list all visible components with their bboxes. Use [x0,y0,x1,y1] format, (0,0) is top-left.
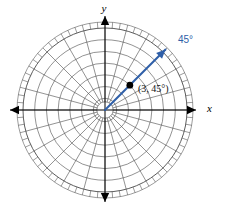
outer-tick-mark [179,145,184,148]
y-axis-arrowhead-bottom [101,193,109,202]
outer-tick-mark [140,30,143,35]
outer-tick-mark [55,38,58,43]
outer-tick-mark [17,102,23,103]
polar-graph-figure: y x 45° (3, 45°) [0,0,251,213]
outer-tick-mark [48,173,52,178]
outer-tick-mark [168,163,173,167]
outer-tick-mark [126,189,128,195]
outer-tick-mark [97,22,98,28]
outer-tick-mark [168,53,173,57]
outer-tick-mark [176,66,181,69]
plotted-point-marker [126,82,133,89]
outer-tick-mark [33,157,38,160]
outer-tick-mark [90,191,91,197]
outer-tick-mark [176,151,181,154]
outer-tick-mark [112,22,113,28]
y-axis-label: y [101,2,107,14]
x-axis-arrowhead-left [10,106,19,114]
outer-tick-mark [20,131,26,133]
outer-tick-mark [146,181,149,186]
outer-tick-mark [68,184,71,189]
outer-tick-mark [163,168,167,172]
outer-tick-mark [29,66,34,69]
outer-tick-mark [184,131,190,133]
outer-tick-mark [38,53,43,57]
outer-tick-mark [55,177,58,182]
outer-tick-mark [158,173,162,178]
point-coordinate-label: (3, 45°) [138,83,169,95]
x-axis-label: x [206,102,212,114]
polar-grid-spoke [34,69,98,106]
outer-tick-mark [43,48,47,52]
outer-tick-mark [140,184,143,189]
outer-tick-mark [75,187,77,193]
outer-tick-mark [75,27,77,33]
outer-tick-mark [152,177,155,182]
outer-tick-mark [133,187,135,193]
outer-tick-mark [158,43,162,48]
outer-tick-mark [119,23,120,29]
terminal-ray-line [105,50,165,110]
outer-tick-mark [179,73,184,76]
point-group [126,82,133,89]
outer-tick-mark [33,60,38,63]
outer-tick-mark [172,157,177,160]
outer-tick-mark [18,124,24,125]
polar-grid-spoke [64,117,101,181]
outer-tick-mark [22,80,28,82]
outer-tick-mark [146,34,149,39]
outer-tick-mark [186,95,192,96]
outer-tick-mark [97,192,98,198]
outer-tick-mark [126,25,128,31]
outer-tick-mark [38,163,43,167]
outer-tick-mark [82,189,84,195]
polar-grid-spoke [109,117,146,181]
outer-tick-mark [182,138,188,140]
outer-tick-mark [187,117,193,118]
outer-tick-mark [48,43,52,48]
outer-tick-mark [61,34,64,39]
outer-tick-mark [17,117,23,118]
x-axis-arrowhead-right [187,106,196,114]
outer-tick-mark [25,145,30,148]
outer-tick-mark [68,30,71,35]
axes-group [10,16,196,202]
polar-grid-spoke [112,114,176,151]
outer-tick-mark [43,168,47,172]
outer-tick-mark [18,95,24,96]
ray-group [105,50,165,110]
outer-tick-mark [82,25,84,31]
outer-tick-mark [119,191,120,197]
polar-grid-spoke [34,114,98,151]
ray-angle-label: 45° [178,34,193,45]
outer-tick-mark [152,38,155,43]
outer-tick-mark [61,181,64,186]
outer-tick-mark [90,23,91,29]
polar-plot-svg: y x 45° (3, 45°) [0,0,251,213]
outer-tick-mark [133,27,135,33]
outer-tick-mark [29,151,34,154]
outer-tick-mark [172,60,177,63]
outer-tick-mark [22,138,28,140]
outer-tick-mark [182,80,188,82]
outer-tick-mark [184,87,190,89]
outer-tick-mark [25,73,30,76]
outer-tick-mark [20,87,26,89]
outer-tick-mark [186,124,192,125]
outer-tick-mark [187,102,193,103]
polar-grid-spoke [64,39,101,103]
y-axis-arrowhead-top [101,16,109,25]
outer-tick-mark [112,192,113,198]
